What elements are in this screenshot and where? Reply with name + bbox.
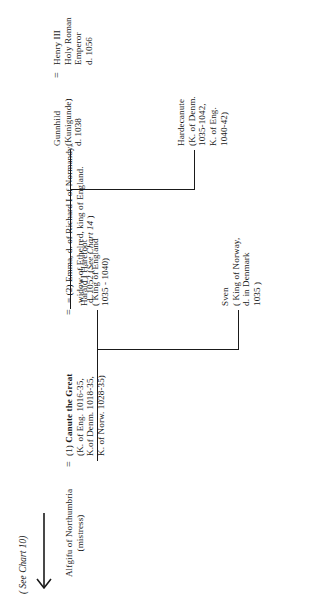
- harald-name: Harald I Harefoot: [79, 210, 90, 306]
- person-canute: (1) Canute the Great (K. of Eng. 1016-35…: [64, 334, 107, 456]
- hardecanute-name: Hardecanute: [176, 74, 187, 146]
- sibling-bar-alfgifu-children: [97, 349, 239, 350]
- sven-detail-1: ( King of Norway,: [231, 210, 242, 306]
- canute-name-line: (1) Canute the Great: [64, 334, 75, 456]
- hardecanute-detail-4: 1040-42): [219, 74, 230, 146]
- gunnhild-detail-1: (Kunigunde): [63, 80, 74, 146]
- gunnhild-name: Gunnhild: [52, 80, 63, 146]
- equals-gunnhild-henry: =: [52, 72, 62, 78]
- hardecanute-detail-1: (K. of Denm.: [187, 74, 198, 146]
- genealogy-chart-canvas: ( See Chart 10) Alfgifu of Northumbria (…: [0, 0, 323, 599]
- harald-detail-2: 1035 - 1040): [100, 210, 111, 306]
- person-gunnhild: Gunnhild (Kunigunde) d. 1038: [52, 80, 84, 146]
- connector-gunnhild: [70, 150, 71, 190]
- henry3-detail-3: d. 1056: [84, 3, 95, 65]
- person-hardecanute: Hardecanute (K. of Denm. 1035-1042, K. o…: [176, 74, 229, 146]
- alfgifu-name: Alfgifu of Northumbria: [64, 470, 75, 596]
- henry3-detail-2: Emperor: [73, 3, 84, 65]
- equals-alfgifu-canute: =: [64, 461, 74, 467]
- person-henry-iii: Henry III Holy Roman Emperor d. 1056: [52, 3, 95, 65]
- connector-harald: [97, 310, 98, 350]
- person-harald: Harald I Harefoot ( King of England 1035…: [79, 210, 111, 306]
- sven-name: Sven: [220, 210, 231, 306]
- canute-detail-2: K.of Denm. 1018-35,: [85, 334, 96, 456]
- sven-detail-3: 1035 ): [252, 210, 263, 306]
- gunnhild-detail-2: d. 1038: [73, 80, 84, 146]
- descent-line-alfgifu-horizontal: [97, 349, 98, 461]
- canute-detail-1: (K. of Eng. 1016-35,: [75, 334, 86, 456]
- connector-sven: [238, 310, 239, 350]
- connector-hardecanute: [194, 150, 195, 190]
- hardecanute-detail-3: K. of Eng.: [208, 74, 219, 146]
- canute-name: Canute the Great: [64, 374, 74, 443]
- harald-detail-1: ( King of England: [90, 210, 101, 306]
- canute-marriage-marker: (1): [64, 445, 74, 456]
- sven-detail-2: d. in Denmark: [241, 210, 252, 306]
- sibling-bar-emma-children: [70, 189, 195, 190]
- hardecanute-detail-2: 1035-1042,: [197, 74, 208, 146]
- alfgifu-detail-1: (mistress): [75, 470, 86, 596]
- person-sven: Sven ( King of Norway, d. in Denmark 103…: [220, 210, 263, 306]
- see-chart-10-reference: ( See Chart 10): [18, 535, 28, 594]
- henry3-name: Henry III: [52, 3, 63, 65]
- henry3-detail-1: Holy Roman: [63, 3, 74, 65]
- equals-canute-emma: =: [64, 309, 74, 315]
- descent-line-emma-horizontal: [70, 189, 71, 309]
- see-chart-10-arrow-icon: [36, 511, 52, 595]
- person-alfgifu: Alfgifu of Northumbria (mistress): [64, 470, 85, 596]
